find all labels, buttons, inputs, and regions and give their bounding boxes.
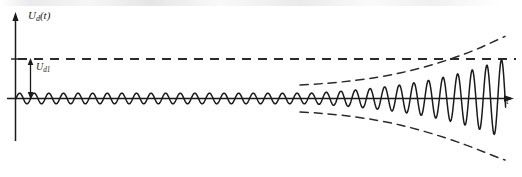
- waveform-figure: Ud(t) Ud1 t: [0, 0, 522, 177]
- y-axis-label-main: U: [28, 9, 36, 21]
- x-axis-label: t: [506, 96, 509, 106]
- waveform-plot: [0, 0, 522, 177]
- lower-envelope-dashed: [300, 112, 505, 160]
- y-axis: [12, 12, 18, 141]
- amplitude-arrow: [28, 58, 34, 99]
- y-axis-label-suffix: (t): [40, 9, 50, 21]
- amplitude-label-subscript: d1: [43, 66, 50, 74]
- amplitude-label: Ud1: [36, 62, 50, 74]
- y-axis-label: Ud(t): [28, 10, 50, 23]
- oscillation-trace: [16, 60, 506, 135]
